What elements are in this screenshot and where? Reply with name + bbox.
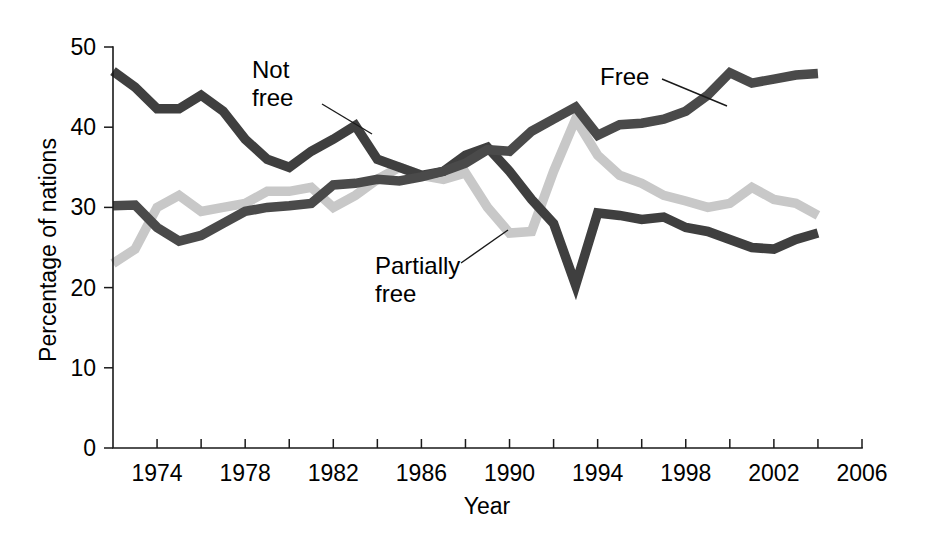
- x-tick-label: 1990: [484, 460, 535, 486]
- annotation-label: Partiallyfree: [375, 252, 460, 307]
- y-tick-label: 20: [70, 275, 96, 301]
- x-tick-labels: 197419781982198619901994199820022006: [131, 460, 887, 486]
- y-tick-label: 0: [83, 435, 96, 461]
- x-tick-label: 1974: [131, 460, 182, 486]
- chart-container: 197419781982198619901994199820022006 010…: [0, 0, 940, 553]
- x-tick-label: 1986: [396, 460, 447, 486]
- x-tick-label: 1978: [220, 460, 271, 486]
- x-tick-label: 1994: [572, 460, 623, 486]
- series-annotations: NotfreeFreePartiallyfree: [252, 56, 727, 307]
- y-tick-label: 50: [70, 34, 96, 60]
- y-tick-labels: 01020304050: [70, 34, 96, 461]
- series-group: [113, 71, 818, 285]
- annotation-label: Notfree: [252, 56, 293, 111]
- series-line-partially-free: [113, 119, 818, 263]
- x-tick-label: 1982: [308, 460, 359, 486]
- y-tick-label: 30: [70, 194, 96, 220]
- x-axis-title: Year: [464, 493, 511, 519]
- x-tick-label: 1998: [660, 460, 711, 486]
- y-axis-title: Percentage of nations: [35, 138, 61, 362]
- annotation-label: Free: [600, 63, 649, 90]
- x-tick-label: 2006: [836, 460, 887, 486]
- x-tick-label: 2002: [748, 460, 799, 486]
- y-tick-label: 40: [70, 114, 96, 140]
- annotation-leader-line: [461, 230, 508, 263]
- y-tick-label: 10: [70, 355, 96, 381]
- line-chart: 197419781982198619901994199820022006 010…: [0, 0, 940, 553]
